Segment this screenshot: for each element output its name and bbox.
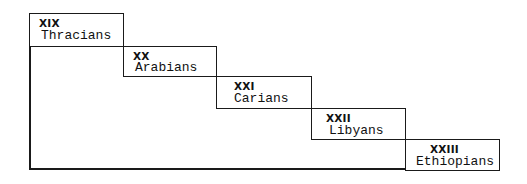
- step-label: Ethiopians: [416, 154, 494, 169]
- step-box-xxiii: XXIII Ethiopians: [405, 139, 500, 171]
- step-box-xx: XX Arabians: [123, 46, 217, 77]
- step-box-xxii: XXII Libyans: [311, 108, 406, 140]
- step-label: Libyans: [329, 123, 384, 138]
- step-box-xxi: XXI Carians: [216, 76, 312, 109]
- step-box-xix: XIX Thracians: [29, 13, 124, 47]
- step-label: Arabians: [135, 60, 197, 75]
- step-label: Carians: [234, 91, 289, 106]
- step-label: Thracians: [41, 28, 111, 43]
